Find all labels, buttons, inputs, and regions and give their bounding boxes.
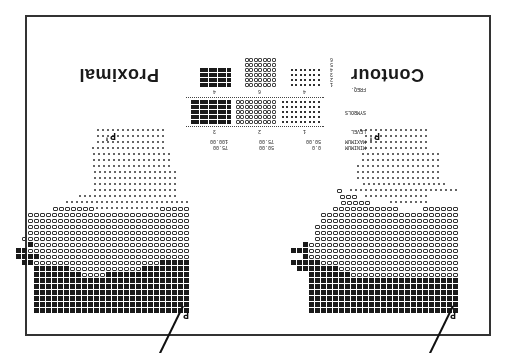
freq-index-column: 123456 <box>330 57 333 87</box>
contour-profile-start-label: P <box>450 309 456 320</box>
legend-divider-bottom <box>186 96 324 98</box>
level-2-symbol-swatch <box>236 100 277 124</box>
proximal-profile-start-label: P <box>183 309 189 320</box>
legend-table: MINIMUM MAXIMUM LEVEL SYMBOLS FREQ. 0.0 … <box>181 43 366 155</box>
level-1-maximum: 50.00 <box>306 138 321 144</box>
level-3-maximum: 100.00 <box>210 138 228 144</box>
freq-index-value: 6 <box>330 57 333 62</box>
proximal-map <box>15 127 189 313</box>
level-1-freq: 4 <box>303 88 306 94</box>
freq-index-value: 1 <box>330 82 333 87</box>
legend-minimum-label: MINIMUM <box>345 144 366 150</box>
freq-index-value: 4 <box>330 67 333 72</box>
proximal-profile-end-label: P' <box>104 130 116 141</box>
level-1-number: 1 <box>303 128 306 134</box>
legend-level-label: LEVEL <box>351 128 366 134</box>
level-3-minimum: 75.00 <box>213 144 228 150</box>
freq-index-value: 5 <box>330 62 333 67</box>
legend-divider-top <box>186 125 324 127</box>
level-1-minimum: 0.0 <box>312 144 321 150</box>
freq-index-value: 3 <box>330 72 333 77</box>
level-3-freq: 4 <box>213 88 216 94</box>
contour-profile-end-label: P' <box>368 130 380 141</box>
level-3-freq-histogram <box>200 68 232 87</box>
level-3-number: 3 <box>213 128 216 134</box>
right-map-title: Proximal <box>79 64 159 85</box>
rotated-page: Contour Proximal P P' P P' MINIMUM MAXIM… <box>0 0 511 353</box>
level-1-freq-histogram <box>290 68 322 87</box>
legend-freq-label: FREQ. <box>351 86 366 92</box>
level-1-symbol-swatch <box>281 100 322 124</box>
level-3-symbol-swatch <box>191 100 232 124</box>
legend-maximum-label: MAXIMUM <box>345 138 366 144</box>
level-2-freq: 6 <box>258 88 261 94</box>
level-2-freq-histogram <box>245 58 277 87</box>
level-2-number: 2 <box>258 128 261 134</box>
freq-index-value: 2 <box>330 77 333 82</box>
legend-symbols-label: SYMBOLS <box>345 109 366 115</box>
level-2-maximum: 75.00 <box>259 138 274 144</box>
level-2-minimum: 50.00 <box>259 144 274 150</box>
